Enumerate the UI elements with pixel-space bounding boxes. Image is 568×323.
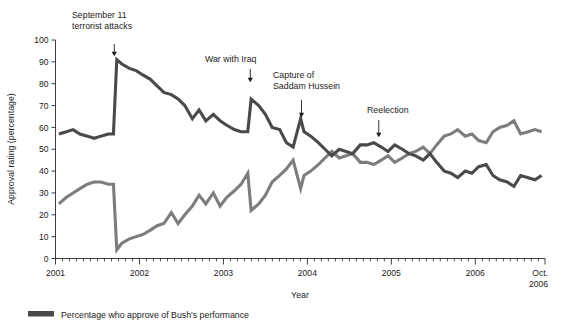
y-tick-label-10: 10 xyxy=(39,232,49,242)
annotation-label-war-iraq-0: War with Iraq xyxy=(205,54,257,64)
x-tick-label-1: 2002 xyxy=(130,268,149,278)
x-tick-label-4: 2005 xyxy=(382,268,401,278)
y-tick-label-20: 20 xyxy=(39,210,49,220)
x-axis-title: Year xyxy=(291,290,309,300)
x-tick-label-0: 2001 xyxy=(46,268,65,278)
x-tick-label-2: 2003 xyxy=(214,268,233,278)
x-tick-label-5: 2006 xyxy=(466,268,485,278)
approval-rating-line-chart: 0102030405060708090100 20012002200320042… xyxy=(0,0,568,323)
chart-figure: 0102030405060708090100 20012002200320042… xyxy=(0,0,568,323)
y-tick-label-70: 70 xyxy=(39,101,49,111)
x-tick-label-6-1: 2006 xyxy=(529,279,548,289)
annotation-label-sept11-0: September 11 xyxy=(72,10,127,20)
y-axis-title: Approval rating (percentage) xyxy=(6,93,16,205)
annotation-label-capture-saddam-0: Capture of xyxy=(273,70,315,80)
y-tick-label-30: 30 xyxy=(39,188,49,198)
legend-swatch-approve xyxy=(28,311,54,317)
y-tick-label-40: 40 xyxy=(39,166,49,176)
annotation-label-sept11-1: terrorist attacks xyxy=(72,21,133,31)
y-tick-label-80: 80 xyxy=(39,79,49,89)
chart-legend: Percentage who approve of Bush's perform… xyxy=(28,310,249,320)
y-tick-label-100: 100 xyxy=(34,35,49,45)
y-tick-label-90: 90 xyxy=(39,57,49,67)
y-tick-label-0: 0 xyxy=(44,254,49,264)
x-tick-label-3: 2004 xyxy=(298,268,317,278)
y-tick-label-60: 60 xyxy=(39,123,49,133)
annotation-label-capture-saddam-1: Saddam Hussein xyxy=(273,81,340,91)
legend-label-approve: Percentage who approve of Bush's perform… xyxy=(61,310,249,320)
annotation-label-reelection-0: Reelection xyxy=(367,105,409,115)
y-tick-label-50: 50 xyxy=(39,144,49,154)
x-tick-label-6-0: Oct. xyxy=(532,268,548,278)
